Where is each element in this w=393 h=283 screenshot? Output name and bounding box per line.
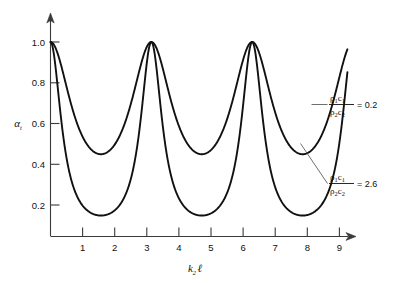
svg-text:k2ℓ: k2ℓ <box>188 262 202 276</box>
y-tick-label-1: 0.8 <box>32 77 45 88</box>
annotation-lower-num-c-sub: 1 <box>342 176 345 183</box>
x-axis-tick-labels: 1 2 3 4 5 6 7 8 9 <box>80 242 342 253</box>
annotation-lower: ρ1c1 ρ2c2 = 2.6 <box>329 172 377 197</box>
x-axis-title-sub: 2 <box>193 269 197 276</box>
curve-series-1 <box>51 42 348 154</box>
x-axis-title: k2ℓ <box>188 262 202 276</box>
svg-text:ρ2c2: ρ2c2 <box>330 186 345 197</box>
svg-text:ρ1c1: ρ1c1 <box>330 172 345 183</box>
y-axis-title: αt <box>14 117 22 131</box>
y-tick-label-3: 0.4 <box>32 159 45 170</box>
curve-series-0 <box>51 42 348 216</box>
x-tick-label-2: 3 <box>144 242 149 253</box>
x-tick-label-0: 1 <box>80 242 85 253</box>
x-tick-label-5: 6 <box>240 242 245 253</box>
x-tick-label-1: 2 <box>112 242 117 253</box>
x-axis-title-tail: ℓ <box>197 262 202 274</box>
x-tick-label-6: 7 <box>273 242 278 253</box>
x-axis <box>51 233 357 241</box>
annotation-lower-leader <box>301 144 328 184</box>
annotation-upper-value: = 0.2 <box>357 100 377 110</box>
y-tick-label-0: 1.0 <box>32 37 45 48</box>
annotation-lower-den-c-sub: 2 <box>342 190 345 197</box>
annotation-upper-num-c-sub: 1 <box>342 97 345 104</box>
annotation-lower-value: = 2.6 <box>357 179 377 189</box>
chart-figure: 1.0 0.8 0.6 0.4 0.2 1 2 3 4 5 6 7 <box>0 0 393 283</box>
y-axis-tick-labels: 1.0 0.8 0.6 0.4 0.2 <box>32 37 45 211</box>
chart-svg: 1.0 0.8 0.6 0.4 0.2 1 2 3 4 5 6 7 <box>0 0 393 283</box>
annotation-upper: ρ1c1 ρ2c2 = 0.2 <box>329 93 377 118</box>
svg-text:ρ1c1: ρ1c1 <box>330 93 345 104</box>
x-tick-label-8: 9 <box>337 242 342 253</box>
annotation-upper-den-c-sub: 2 <box>342 111 345 118</box>
x-tick-label-7: 8 <box>305 242 310 253</box>
y-tick-label-4: 0.2 <box>32 200 45 211</box>
x-tick-label-3: 4 <box>176 242 181 253</box>
y-tick-label-2: 0.6 <box>32 118 45 129</box>
x-tick-label-4: 5 <box>208 242 213 253</box>
x-axis-ticks <box>83 228 340 237</box>
svg-text:αt: αt <box>14 117 22 131</box>
y-axis-title-sub: t <box>20 124 22 131</box>
